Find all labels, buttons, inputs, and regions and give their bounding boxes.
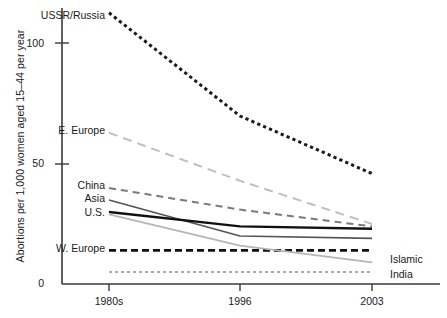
plot-area (0, 0, 447, 318)
series-line-ussr-russia (109, 13, 372, 174)
series-label-china: China (55, 179, 105, 191)
line-chart: Abortions per 1,000 women aged 15–44 per… (0, 0, 447, 318)
series-label-e-europe: E. Europe (38, 124, 105, 136)
series-label-u-s: U.S. (62, 206, 105, 218)
axis-lines (55, 8, 440, 291)
series-line-u-s (109, 212, 372, 229)
series-label-india: India (390, 268, 413, 280)
series-label-islamic: Islamic (390, 253, 423, 265)
series-label-ussr-russia: USSR/Russia (38, 9, 105, 21)
series-lines (109, 13, 372, 272)
series-label-w-europe: W. Europe (22, 242, 105, 254)
series-line-china (109, 188, 372, 226)
series-label-asia: Asia (62, 192, 105, 204)
series-line-asia (109, 200, 372, 238)
